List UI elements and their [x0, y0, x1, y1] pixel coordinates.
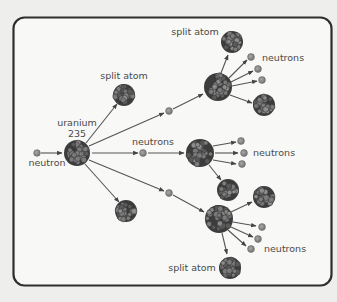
neutron: [255, 236, 262, 243]
neutron: [140, 150, 147, 157]
neutron: [248, 246, 255, 253]
neutron: [241, 150, 248, 157]
split-atom-icon: [219, 257, 241, 279]
split-atom-label: split atom: [100, 70, 148, 81]
uranium-label: uranium: [57, 117, 97, 128]
split-atom-label: split atom: [168, 262, 216, 273]
neutron: [238, 138, 245, 145]
uranium-mass-label: 235: [68, 128, 86, 139]
neutron: [166, 108, 173, 115]
neutron: [259, 224, 266, 231]
neutrons-label: neutrons: [262, 52, 304, 63]
neutron: [166, 190, 173, 197]
nucleus-icon: [186, 139, 214, 167]
neutron: [248, 54, 255, 61]
neutrons-label: neutrons: [132, 136, 174, 147]
neutron: [255, 66, 262, 73]
neutrons-label: neutrons: [253, 147, 295, 158]
neutron: [259, 77, 266, 84]
incoming-neutron-label: neutron: [28, 157, 65, 168]
split-atom-label: split atom: [171, 26, 219, 37]
nucleus-icon: [205, 205, 233, 233]
nucleus-icon: [64, 140, 90, 166]
neutrons-label: neutrons: [264, 243, 306, 254]
split-atom-icon: [253, 94, 275, 116]
split-atom-icon: [253, 186, 275, 208]
split-atom-icon: [115, 200, 137, 222]
neutron: [239, 161, 246, 168]
incoming-neutron: [34, 150, 41, 157]
fission-chain-diagram: uranium 235 neutron split atom neutrons …: [0, 0, 337, 302]
split-atom-icon: [221, 31, 243, 53]
split-atom-icon: [217, 179, 239, 201]
